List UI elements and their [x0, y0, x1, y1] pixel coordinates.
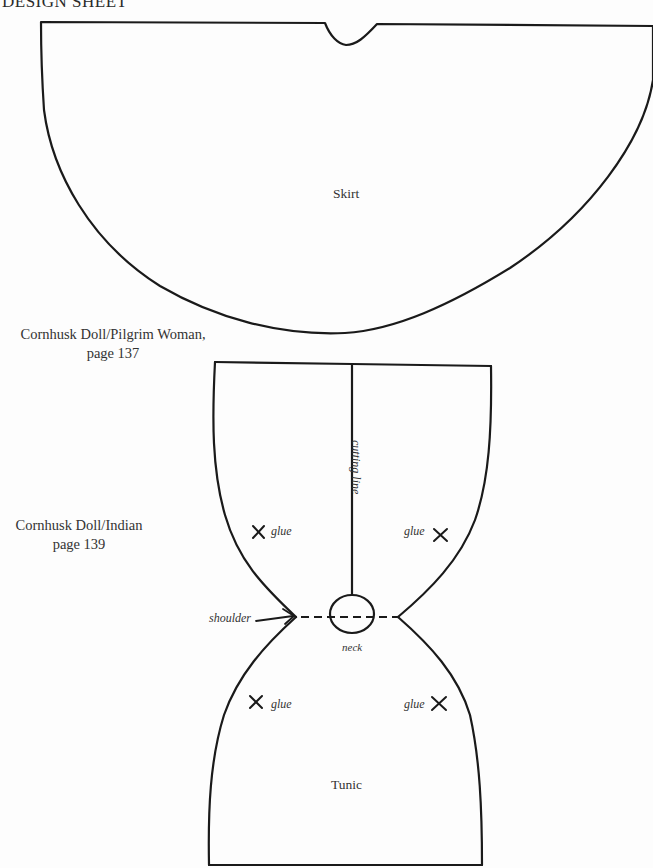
glue-label-top-right: glue	[404, 524, 425, 539]
reference-indian-title: Cornhusk Doll/Indian	[4, 516, 154, 535]
skirt-outline	[41, 22, 653, 333]
glue-label-bottom-left: glue	[271, 697, 292, 712]
glue-label-top-left: glue	[271, 524, 292, 539]
arrow-right-icon	[256, 609, 294, 624]
reference-pilgrim-woman: Cornhusk Doll/Pilgrim Woman, page 137	[7, 325, 219, 363]
reference-indian-page: page 139	[4, 535, 154, 554]
neck-label: neck	[342, 641, 362, 653]
x-mark-icon	[250, 696, 262, 708]
reference-pilgrim-page: page 137	[7, 344, 219, 363]
glue-label-bottom-right: glue	[404, 697, 425, 712]
cutting-line-label: cutting line	[348, 440, 363, 494]
neck-circle	[330, 595, 374, 633]
reference-pilgrim-title: Cornhusk Doll/Pilgrim Woman,	[7, 325, 219, 344]
x-mark-icon	[432, 697, 446, 710]
x-mark-icon	[434, 529, 447, 541]
shoulder-label: shoulder	[209, 611, 251, 626]
reference-indian: Cornhusk Doll/Indian page 139	[4, 516, 154, 554]
x-mark-icon	[253, 526, 264, 538]
tunic-label: Tunic	[331, 777, 362, 793]
pattern-drawing	[0, 0, 653, 868]
skirt-label: Skirt	[333, 186, 359, 202]
